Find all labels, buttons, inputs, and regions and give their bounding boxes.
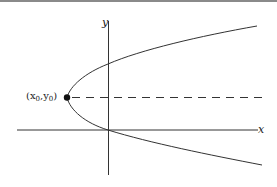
y-axis-label: y xyxy=(102,17,108,28)
parabola-curve xyxy=(67,26,262,165)
x-axis-label: x xyxy=(258,124,264,135)
vertex-point xyxy=(64,94,70,100)
paren-close: ) xyxy=(53,90,57,101)
vertex-label: (x0,y0) xyxy=(26,91,57,103)
